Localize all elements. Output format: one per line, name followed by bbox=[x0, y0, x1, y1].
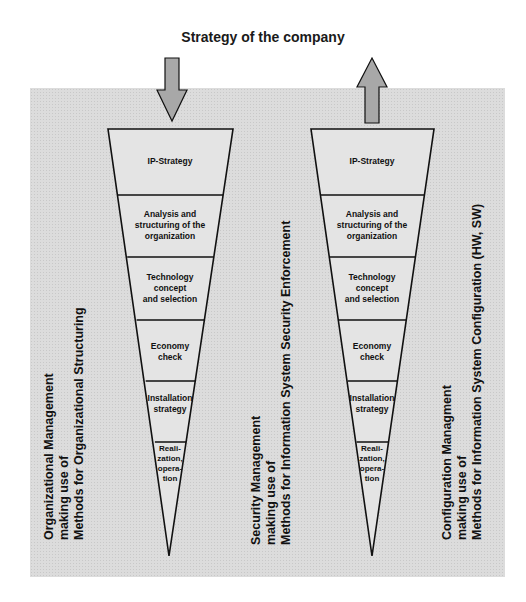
right-stage-analysis: Analysis andstructuring of theorganizati… bbox=[337, 209, 407, 242]
left-stage-analysis: Analysis andstructuring of theorganizati… bbox=[135, 209, 205, 242]
right-stage-economy: Economycheck bbox=[353, 341, 391, 363]
security-management-label: Security Management making use of Method… bbox=[249, 221, 294, 545]
right-stage-ip-strategy: IP-Strategy bbox=[350, 156, 395, 167]
left-stage-ip-strategy: IP-Strategy bbox=[148, 156, 193, 167]
left-stage-economy: Economycheck bbox=[151, 341, 189, 363]
arrow-down-icon bbox=[157, 58, 187, 121]
configuration-management-label: Configuration Managment making use of Me… bbox=[440, 204, 485, 540]
left-stage-installation: Installationstrategy bbox=[148, 393, 193, 415]
right-stage-installation: Installationstrategy bbox=[350, 393, 395, 415]
right-stage-realization: Reali-zation,opera-tion bbox=[359, 444, 384, 484]
organizational-management-label: Organizational Management making use of … bbox=[42, 307, 87, 540]
arrow-up-icon bbox=[357, 58, 387, 123]
left-stage-technology: Technologyconceptand selection bbox=[143, 272, 197, 305]
left-stage-realization: Reali-zation,opera-tion bbox=[157, 444, 182, 484]
right-stage-technology: Technologyconceptand selection bbox=[345, 272, 399, 305]
